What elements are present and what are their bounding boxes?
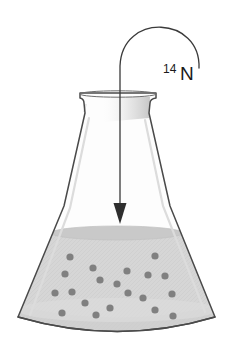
liquid-surface [51, 226, 183, 240]
nitrogen-particle [144, 271, 151, 278]
nitrogen-particle [68, 288, 75, 295]
nitrogen-particle [81, 299, 88, 306]
nitrogen-particle [106, 304, 113, 311]
nitrogen-particle [139, 294, 146, 301]
nitrogen-particle [169, 312, 176, 319]
nitrogen-particle [96, 276, 103, 283]
flask-diagram: 14 N [0, 0, 233, 355]
nitrogen-particle [124, 289, 131, 296]
nitrogen-particle [58, 309, 65, 316]
nitrogen-particle [89, 264, 96, 271]
neck-shading [100, 97, 150, 122]
nitrogen-particle [151, 252, 158, 259]
nitrogen-particle [66, 253, 73, 260]
nitrogen-particle [168, 290, 175, 297]
nitrogen-particle [51, 289, 58, 296]
nitrogen-particle [161, 272, 168, 279]
isotope-mass-number: 14 [163, 62, 177, 76]
figure-container: 14 N [0, 0, 233, 355]
nitrogen-particle [113, 280, 120, 287]
nitrogen-particle [123, 267, 130, 274]
nitrogen-particle [151, 306, 158, 313]
nitrogen-particle [92, 311, 99, 318]
nitrogen-particle [61, 270, 68, 277]
flask-base-highlight [17, 298, 217, 322]
isotope-element-symbol: N [180, 63, 194, 84]
